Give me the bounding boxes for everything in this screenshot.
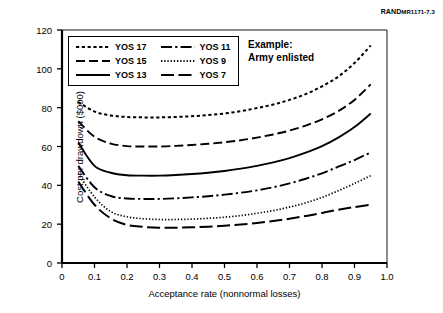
x-tick-label: 0.5	[210, 271, 240, 282]
legend: YOS 17YOS 15YOS 13 YOS 11YOS 9YOS 7	[68, 36, 239, 86]
figure-container: RANDMR1171-7.3 Cost per drawdown ($000) …	[0, 0, 443, 313]
legend-item: YOS 13	[76, 70, 147, 80]
y-tick-label: 40	[26, 180, 52, 191]
x-tick-label: 0.6	[242, 271, 272, 282]
y-tick-label: 80	[26, 102, 52, 113]
y-tick-label: 120	[26, 25, 52, 36]
legend-item: YOS 7	[161, 70, 231, 80]
legend-item: YOS 9	[161, 56, 231, 66]
example-annotation-line2: Army enlisted	[248, 51, 314, 64]
x-tick-label: 0.1	[80, 271, 110, 282]
legend-swatch-yos-13	[76, 70, 110, 80]
legend-swatch-yos-17	[76, 42, 110, 52]
legend-label: YOS 15	[115, 56, 147, 66]
x-tick-label: 0	[47, 271, 77, 282]
y-tick-label: 100	[26, 63, 52, 74]
legend-label: YOS 11	[200, 42, 231, 52]
x-tick-label: 0.8	[307, 271, 337, 282]
x-tick-label: 0.4	[177, 271, 207, 282]
legend-label: YOS 7	[200, 70, 227, 80]
example-annotation: Example: Army enlisted	[248, 38, 314, 64]
legend-swatch-yos-9	[161, 56, 195, 66]
legend-item: YOS 17	[76, 42, 147, 52]
legend-item: YOS 11	[161, 42, 231, 52]
legend-label: YOS 17	[115, 42, 147, 52]
legend-item: YOS 15	[76, 56, 147, 66]
legend-swatch-yos-7	[161, 70, 195, 80]
legend-swatch-yos-11	[161, 42, 195, 52]
y-tick-label: 20	[26, 219, 52, 230]
legend-column-left: YOS 17YOS 15YOS 13	[76, 42, 147, 80]
example-annotation-line1: Example:	[248, 38, 314, 51]
y-tick-label: 0	[26, 258, 52, 269]
legend-column-right: YOS 11YOS 9YOS 7	[161, 42, 231, 80]
y-axis-label: Cost per drawdown ($000)	[74, 91, 85, 203]
x-tick-label: 1.0	[372, 271, 402, 282]
legend-label: YOS 13	[115, 70, 147, 80]
x-tick-label: 0.7	[275, 271, 305, 282]
x-tick-label: 0.2	[112, 271, 142, 282]
y-tick-label: 60	[26, 141, 52, 152]
legend-swatch-yos-15	[76, 56, 110, 66]
legend-label: YOS 9	[200, 56, 227, 66]
x-tick-label: 0.3	[145, 271, 175, 282]
x-axis-label: Acceptance rate (nonnormal losses)	[62, 288, 387, 299]
x-tick-label: 0.9	[340, 271, 370, 282]
